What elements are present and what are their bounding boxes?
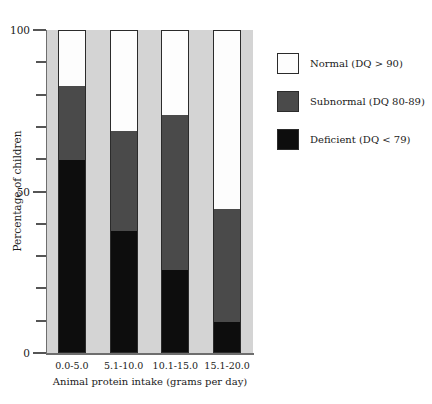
y-axis-tick-label: 100 [0, 25, 30, 36]
legend-label: Subnormal (DQ 80-89) [310, 96, 425, 107]
y-axis-minor-tick [36, 223, 46, 225]
x-axis-title: Animal protein intake (grams per day) [46, 376, 254, 387]
legend-swatch [277, 129, 299, 150]
bar-segment [111, 231, 137, 353]
bar-segment [111, 131, 137, 231]
x-axis-tick-label: 5.1-10.0 [98, 360, 150, 371]
legend-swatch [277, 53, 299, 74]
bar-15.1-20.0 [213, 30, 241, 353]
bar-segment [162, 31, 188, 115]
legend-item: Deficient (DQ < 79) [277, 120, 425, 158]
y-axis-minor-tick [36, 61, 46, 63]
y-axis-minor-tick [36, 287, 46, 289]
bar-segment [59, 31, 85, 86]
stacked-bar-chart: 050100 Percentage of children 0.0-5.05.1… [0, 0, 432, 404]
y-axis-minor-tick [36, 255, 46, 257]
bar-segment [162, 270, 188, 353]
x-axis-tick-label: 15.1-20.0 [201, 360, 253, 371]
y-axis-major-tick [33, 29, 46, 31]
y-axis-minor-tick [36, 126, 46, 128]
bar-segment [59, 160, 85, 353]
bar-10.1-15.0 [161, 30, 189, 353]
legend-label: Deficient (DQ < 79) [310, 134, 410, 145]
x-axis-tick-label: 0.0-5.0 [46, 360, 98, 371]
y-axis-line [46, 30, 47, 354]
legend-item: Subnormal (DQ 80-89) [277, 82, 425, 120]
legend-label: Normal (DQ > 90) [310, 58, 403, 69]
y-axis-minor-tick [36, 320, 46, 322]
bar-segment [214, 31, 240, 209]
bar-segment [162, 115, 188, 270]
bar-segment [111, 31, 137, 131]
y-axis-minor-tick [36, 158, 46, 160]
y-axis-tick-label: 0 [0, 348, 30, 359]
x-axis-tick-label: 10.1-15.0 [150, 360, 202, 371]
legend-item: Normal (DQ > 90) [277, 44, 425, 82]
bar-segment [59, 86, 85, 160]
bar-segment [214, 209, 240, 322]
legend-swatch [277, 91, 299, 112]
y-axis-major-tick [33, 191, 46, 193]
bar-segment [214, 322, 240, 353]
bar-0.0-5.0 [58, 30, 86, 353]
legend: Normal (DQ > 90)Subnormal (DQ 80-89)Defi… [277, 44, 425, 158]
y-axis-minor-tick [36, 94, 46, 96]
bar-5.1-10.0 [110, 30, 138, 353]
y-axis-major-tick [33, 352, 46, 354]
x-axis-line [46, 353, 254, 355]
y-axis-title: Percentage of children [11, 101, 23, 281]
